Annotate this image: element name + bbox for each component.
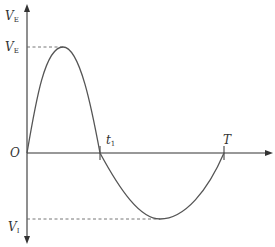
- period-T-label: T: [223, 134, 231, 146]
- positive-half-curve: [27, 47, 100, 153]
- negative-half-curve: [100, 153, 224, 219]
- waveform-canvas: [0, 0, 275, 247]
- waveform-diagram: VE VE O t1 T VI: [0, 0, 275, 247]
- y-axis-top-label: VE: [5, 10, 19, 24]
- t1-label: t1: [106, 134, 115, 148]
- trough-level-label: VI: [8, 221, 19, 235]
- origin-label: O: [10, 147, 20, 159]
- peak-level-label: VE: [5, 41, 19, 55]
